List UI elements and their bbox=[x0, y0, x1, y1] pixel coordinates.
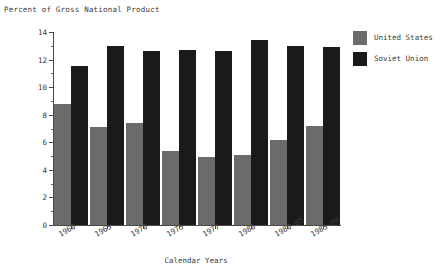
bar-1970-ussr bbox=[143, 51, 160, 225]
y-tick-mark bbox=[49, 87, 53, 88]
bar-1975-ussr bbox=[179, 50, 196, 225]
y-tick-label: 12 bbox=[38, 55, 47, 64]
bar-1985-90-ussr bbox=[323, 47, 340, 225]
y-tick-label: 10 bbox=[38, 83, 47, 92]
x-axis-title: Calendar Years bbox=[0, 256, 392, 265]
plot-area: 02468101214 1960196519701975197719801980… bbox=[53, 32, 341, 226]
y-tick-mark bbox=[49, 170, 53, 171]
y-tick-mark bbox=[49, 32, 53, 33]
y-tick-mark bbox=[49, 142, 53, 143]
legend-swatch-icon bbox=[353, 52, 367, 66]
legend: United StatesSoviet Union bbox=[353, 27, 433, 69]
legend-item-soviet-union[interactable]: Soviet Union bbox=[353, 48, 433, 69]
legend-label: Soviet Union bbox=[374, 54, 428, 63]
y-tick-label: 2 bbox=[42, 193, 47, 202]
y-tick-mark bbox=[49, 115, 53, 116]
bar-1970-us bbox=[126, 123, 143, 225]
chart-title: Percent of Gross National Product bbox=[4, 5, 160, 14]
bar-1965-us bbox=[90, 127, 107, 225]
legend-label: United States bbox=[374, 33, 433, 42]
bar-group-1980 bbox=[234, 32, 268, 225]
legend-swatch-icon bbox=[353, 31, 367, 45]
bar-1980-us bbox=[234, 155, 251, 225]
bar-1985-90-us bbox=[306, 126, 323, 225]
y-tick-minor-13 bbox=[51, 46, 53, 47]
y-tick-mark bbox=[49, 225, 53, 226]
bar-1980-85-us bbox=[270, 140, 287, 225]
bar-group-1977 bbox=[198, 32, 232, 225]
y-tick-label: 6 bbox=[42, 138, 47, 147]
legend-item-united-states[interactable]: United States bbox=[353, 27, 433, 48]
y-tick-minor-9 bbox=[51, 101, 53, 102]
y-tick-minor-11 bbox=[51, 73, 53, 74]
y-tick-mark bbox=[49, 197, 53, 198]
y-tick-label: 0 bbox=[42, 221, 47, 230]
bar-1977-ussr bbox=[215, 51, 232, 225]
bar-1980-ussr bbox=[251, 40, 268, 225]
y-tick-label: 14 bbox=[38, 28, 47, 37]
y-tick-label: 4 bbox=[42, 165, 47, 174]
bar-1977-us bbox=[198, 157, 215, 225]
bar-group-1980-85 bbox=[270, 32, 304, 225]
bar-1980-85-ussr bbox=[287, 46, 304, 225]
y-tick-label: 8 bbox=[42, 110, 47, 119]
bar-group-1975 bbox=[162, 32, 196, 225]
bar-1965-ussr bbox=[107, 46, 124, 225]
y-tick-minor-3 bbox=[51, 184, 53, 185]
bar-1960-ussr bbox=[71, 66, 88, 225]
bar-group-1960 bbox=[54, 32, 88, 225]
bar-group-1970 bbox=[126, 32, 160, 225]
bar-group-1965 bbox=[90, 32, 124, 225]
y-tick-mark bbox=[49, 60, 53, 61]
y-tick-minor-7 bbox=[51, 129, 53, 130]
bar-1975-us bbox=[162, 151, 179, 225]
y-tick-minor-5 bbox=[51, 156, 53, 157]
bar-1960-us bbox=[54, 104, 71, 225]
y-tick-minor-1 bbox=[51, 211, 53, 212]
bar-group-1985-90 bbox=[306, 32, 340, 225]
